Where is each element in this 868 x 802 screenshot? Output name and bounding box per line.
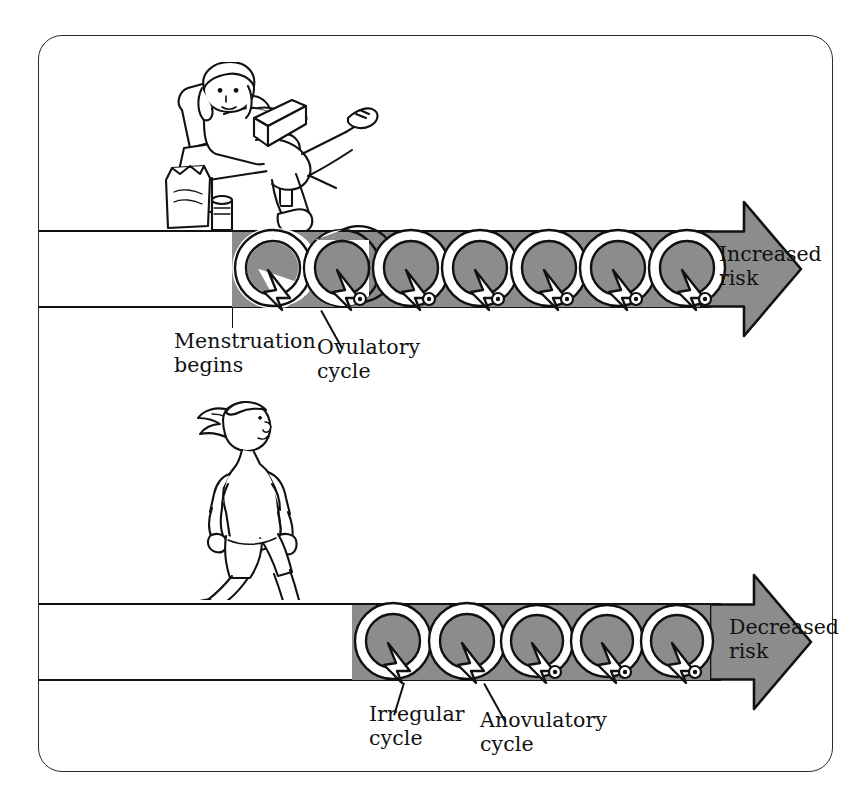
cycle-loop [632, 599, 722, 691]
running-woman-athlete [168, 388, 358, 600]
sedentary-woman-reading-in-chair [160, 62, 380, 237]
menstruation-begins-label: Menstruation begins [174, 330, 316, 377]
menstruation-begins-tick [232, 308, 233, 328]
anovulatory-cycle-label: Anovulatory cycle [480, 709, 607, 756]
irregular-cycle-label: Irregular cycle [369, 703, 465, 750]
increased-risk-label: Increased risk [719, 243, 822, 290]
ovulatory-cycle-label: Ovulatory cycle [317, 336, 420, 383]
decreased-risk-label: Decreased risk [729, 616, 839, 663]
diagram-canvas: Increased risk Menstruation begins Ovula… [0, 0, 868, 802]
